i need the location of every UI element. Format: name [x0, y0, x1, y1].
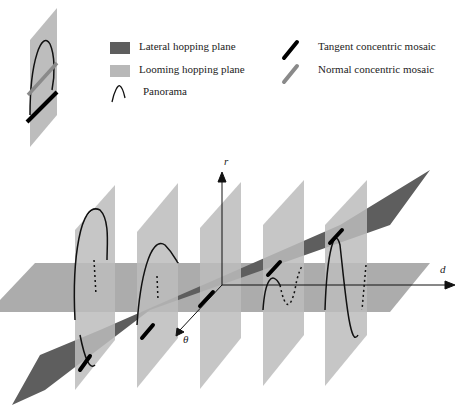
legend-looming-label: Looming hopping plane — [139, 63, 245, 75]
tangent-bar-icon — [284, 42, 297, 58]
legend-normal-label: Normal concentric mosaic — [318, 63, 434, 75]
legend-tangent-label: Tangent concentric mosaic — [318, 40, 436, 52]
axis-theta-label: θ — [183, 333, 188, 345]
lateral-swatch-icon — [110, 42, 130, 54]
legend-panorama-label: Panorama — [143, 85, 187, 97]
axis-r-label: r — [224, 155, 228, 167]
inset-illustration — [27, 8, 57, 147]
axis-d-label: d — [440, 263, 446, 275]
legend-lateral-label: Lateral hopping plane — [139, 40, 236, 52]
panorama-curve-icon — [112, 86, 125, 102]
normal-bar-icon — [284, 66, 297, 82]
looming-swatch-icon — [110, 65, 130, 77]
